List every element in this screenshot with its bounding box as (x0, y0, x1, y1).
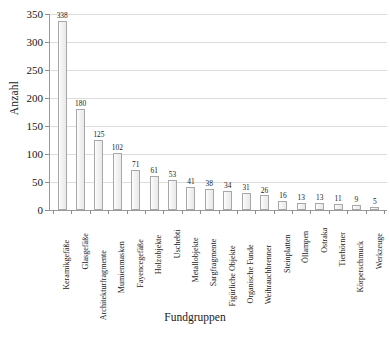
x-axis-category-label: Ostraka (320, 202, 328, 227)
bar-value-label: 13 (316, 194, 323, 201)
y-axis-tick-mark (45, 98, 49, 99)
x-axis-tick-mark (53, 210, 54, 214)
bar (58, 21, 67, 210)
bar-group: 38 (200, 14, 218, 210)
x-axis-label-slot: Holzobjekte (145, 215, 163, 303)
x-axis-tick-mark (127, 210, 128, 214)
x-axis-tick-mark (255, 210, 256, 214)
bar-value-label: 71 (132, 161, 139, 168)
bar-group: 13 (310, 14, 328, 210)
x-axis-tick-mark (237, 210, 238, 214)
x-axis-label-slot: Organische Funde (237, 215, 255, 303)
bar-chart: Anzahl 338180125102716153413834312616131… (0, 0, 390, 337)
y-axis-tick-mark (45, 182, 49, 183)
x-axis-tick-mark (219, 210, 220, 214)
x-axis-tick-mark (71, 210, 72, 214)
x-axis-label-slot: Fayencegefäße (127, 215, 145, 303)
y-axis-tick-mark (45, 154, 49, 155)
bar-value-label: 338 (57, 12, 68, 19)
x-axis-label-slot: Glasgefäße (71, 215, 89, 303)
y-axis-tick-mark (45, 42, 49, 43)
y-axis-tick-label: 50 (3, 176, 43, 188)
y-axis-tick-mark (45, 70, 49, 71)
x-axis-labels: KeramikgefäßeGlasgefäßeArchitekturfragme… (49, 215, 387, 303)
bar (76, 109, 85, 210)
x-axis-tick-mark (145, 210, 146, 214)
x-axis-category-label: Architekturfragmente (99, 180, 107, 250)
bar-group: 26 (255, 14, 273, 210)
bar-value-label: 38 (206, 180, 213, 187)
x-axis-tick-mark (347, 210, 348, 214)
bar-group: 338 (53, 14, 71, 210)
x-axis-category-label: Öllampen (301, 199, 309, 231)
x-axis-label-slot: Öllampen (292, 215, 310, 303)
bar-group: 71 (127, 14, 145, 210)
bar-group: 31 (237, 14, 255, 210)
x-axis-tick-mark (182, 210, 183, 214)
x-axis-category-label: Weihrauchbrenner (264, 185, 272, 245)
x-axis-tick-mark (90, 210, 91, 214)
x-axis-category-label: Glasgefäße (81, 197, 89, 233)
bar-value-label: 102 (112, 144, 123, 151)
x-axis-label-slot: Tierhörner (329, 215, 347, 303)
x-axis-category-label: Holzobjekte (154, 195, 162, 235)
x-axis-label-slot: Figürliche Objekte (219, 215, 237, 303)
x-axis-category-label: Keramikgefäße (62, 190, 70, 240)
y-axis-tick-label: 150 (3, 120, 43, 132)
bar-group: 11 (329, 14, 347, 210)
bar-group: 13 (292, 14, 310, 210)
x-axis-category-label: Steinplatten (283, 196, 291, 235)
bar-value-label: 53 (169, 171, 176, 178)
x-axis-label-slot: Ostraka (310, 215, 328, 303)
x-axis-category-label: Organische Funde (246, 186, 254, 245)
bar-value-label: 180 (75, 100, 86, 107)
bar-group: 5 (366, 14, 384, 210)
y-axis-tick-mark (45, 14, 49, 15)
x-axis-tick-mark (292, 210, 293, 214)
bar-group: 180 (71, 14, 89, 210)
bar-group: 61 (145, 14, 163, 210)
x-axis-category-label: Tierhörner (338, 198, 346, 232)
x-axis-label-slot: Sargfragmente (200, 215, 218, 303)
x-axis-label-slot: Werkzeuge (366, 215, 384, 303)
x-axis-category-label: Werkzeuge (375, 197, 383, 233)
x-axis-label-slot: Metallobjekte (182, 215, 200, 303)
bar-group: 41 (182, 14, 200, 210)
x-axis-category-label: Uschebti (173, 201, 181, 230)
y-axis-tick-label: 300 (3, 36, 43, 48)
x-axis-tick-mark (200, 210, 201, 214)
y-axis-tick-mark (45, 126, 49, 127)
y-axis-tick-label: 250 (3, 64, 43, 76)
bar-value-label: 41 (187, 178, 194, 185)
x-axis-category-label: Körperschmuck (356, 189, 364, 241)
x-axis-tick-mark (384, 210, 385, 214)
x-axis-category-label: Mumienmasken (117, 189, 125, 241)
x-axis-label-slot: Körperschmuck (347, 215, 365, 303)
x-axis-tick-mark (310, 210, 311, 214)
x-axis-tick-mark (329, 210, 330, 214)
x-axis-label-slot: Keramikgefäße (53, 215, 71, 303)
bar-group: 53 (163, 14, 181, 210)
bar-group: 102 (108, 14, 126, 210)
x-axis-label-slot: Weihrauchbrenner (255, 215, 273, 303)
bar-group: 16 (274, 14, 292, 210)
x-axis-label-slot: Architekturfragmente (90, 215, 108, 303)
x-axis-tick-mark (163, 210, 164, 214)
x-axis-category-label: Figürliche Objekte (228, 185, 236, 246)
y-axis-tick-label: 100 (3, 148, 43, 160)
bar-group: 34 (219, 14, 237, 210)
bar-value-label: 61 (150, 167, 157, 174)
y-axis-tick-label: 0 (3, 204, 43, 216)
x-axis-category-label: Fayencegefäße (136, 191, 144, 240)
x-axis-title: Fundgruppen (0, 311, 390, 323)
x-axis-category-label: Metallobjekte (191, 193, 199, 238)
x-axis-tick-mark (108, 210, 109, 214)
x-axis-label-slot: Mumienmasken (108, 215, 126, 303)
y-axis-tick-label: 350 (3, 8, 43, 20)
y-axis-tick-label: 200 (3, 92, 43, 104)
x-axis-label-slot: Steinplatten (274, 215, 292, 303)
x-axis-category-label: Sargfragmente (209, 191, 217, 239)
bar-group: 9 (347, 14, 365, 210)
x-axis-tick-mark (366, 210, 367, 214)
x-axis-tick-mark (274, 210, 275, 214)
